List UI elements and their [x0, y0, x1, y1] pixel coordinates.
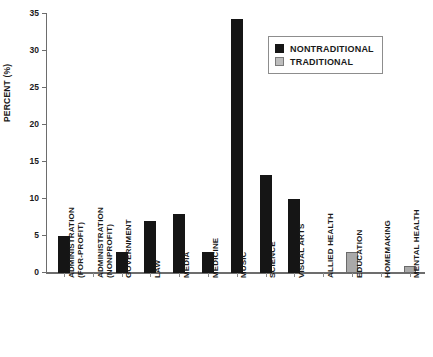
x-tick: [381, 273, 382, 277]
x-axis-label-line1: LAW: [153, 260, 162, 278]
x-axis-label: ALLIED HEALTH: [327, 213, 336, 278]
x-tick: [237, 273, 238, 277]
bar-chart: PERCENT (%) 05101520253035 ADMINISTRATIO…: [0, 0, 433, 357]
y-tick-label-15: 15: [30, 156, 39, 166]
x-axis-label: VISUAL ARTS: [298, 223, 307, 278]
x-axis-label: MEDIA: [183, 251, 192, 278]
x-axis-label: GOVERNMENT: [125, 219, 134, 278]
x-axis-label: ADMINISTRATION(FOR-PROFIT): [68, 207, 85, 278]
y-tick-25: 25: [42, 87, 46, 88]
x-axis-label-line1: SCIENCE: [268, 241, 277, 278]
y-tick-label-30: 30: [30, 45, 39, 55]
x-tick: [410, 273, 411, 277]
y-tick-0: 0: [42, 272, 46, 273]
x-tick: [208, 273, 209, 277]
y-tick-30: 30: [42, 50, 46, 51]
y-tick-label-20: 20: [30, 119, 39, 129]
x-axis-label-line1: ADMINISTRATION: [96, 207, 105, 278]
x-tick: [122, 273, 123, 277]
legend-label-nontraditional: NONTRADITIONAL: [290, 44, 374, 54]
x-axis-label-line2: (FOR-PROFIT): [77, 207, 86, 278]
x-axis-label-line2: (NONPROFIT): [105, 207, 114, 278]
x-axis-label: LAW: [154, 260, 163, 278]
x-axis-label: EDUCATION: [356, 230, 365, 278]
y-tick-label-10: 10: [30, 193, 39, 203]
y-tick-15: 15: [42, 161, 46, 162]
y-tick-label-5: 5: [34, 230, 39, 240]
x-tick: [323, 273, 324, 277]
legend-swatch-icon-traditional: [275, 57, 284, 66]
y-axis-line: [46, 13, 47, 273]
y-tick-label-0: 0: [34, 267, 39, 277]
y-tick-label-25: 25: [30, 82, 39, 92]
x-axis-label: SCIENCE: [269, 241, 278, 278]
x-axis-label-line1: MEDICINE: [211, 238, 220, 278]
legend-item-nontraditional: NONTRADITIONAL: [275, 42, 374, 55]
bar: [231, 19, 243, 273]
y-tick-10: 10: [42, 198, 46, 199]
y-tick-20: 20: [42, 124, 46, 125]
x-axis-label-line1: MENTAL HEALTH: [412, 209, 421, 278]
y-tick-label-35: 35: [30, 8, 39, 18]
x-tick: [266, 273, 267, 277]
legend: NONTRADITIONAL TRADITIONAL: [268, 36, 383, 74]
y-tick-5: 5: [42, 235, 46, 236]
x-tick: [64, 273, 65, 277]
x-axis-label-line1: GOVERNMENT: [124, 219, 133, 278]
x-tick: [294, 273, 295, 277]
legend-swatch-icon-nontraditional: [275, 44, 284, 53]
x-axis-label-line1: EDUCATION: [355, 230, 364, 278]
x-axis-label: ADMINISTRATION(NONPROFIT): [97, 207, 114, 278]
x-axis-label-line1: VISUAL ARTS: [297, 223, 306, 278]
x-axis-label: MEDICINE: [212, 238, 221, 278]
x-axis-label-line1: MEDIA: [182, 251, 191, 278]
legend-label-traditional: TRADITIONAL: [290, 57, 353, 67]
x-tick: [93, 273, 94, 277]
x-tick: [179, 273, 180, 277]
x-axis-label: HOMEMAKING: [384, 220, 393, 278]
x-axis-label-line1: MUSIC: [239, 251, 248, 278]
x-axis-label: MUSIC: [240, 251, 249, 278]
y-tick-35: 35: [42, 13, 46, 14]
legend-item-traditional: TRADITIONAL: [275, 55, 374, 68]
y-axis-title: PERCENT (%): [2, 108, 12, 122]
x-tick: [352, 273, 353, 277]
x-axis-label: MENTAL HEALTH: [413, 209, 422, 278]
x-tick: [150, 273, 151, 277]
x-axis-label-line1: ADMINISTRATION: [67, 207, 76, 278]
x-axis-label-line1: HOMEMAKING: [383, 220, 392, 278]
x-axis-label-line1: ALLIED HEALTH: [326, 213, 335, 278]
